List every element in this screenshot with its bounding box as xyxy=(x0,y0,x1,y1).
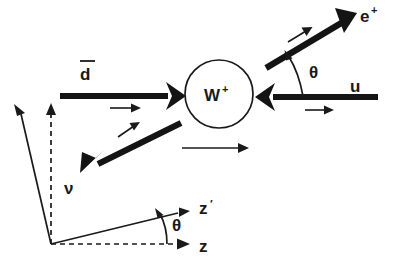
y-axis-dashed xyxy=(46,103,56,244)
neutrino-arrow xyxy=(80,123,181,173)
frame-angle-arc xyxy=(155,208,167,244)
neutrino-label: ν xyxy=(64,179,73,198)
positron-label: e xyxy=(360,7,369,26)
u-spin-arrow xyxy=(305,106,334,115)
dbar-spin-arrow xyxy=(110,104,141,113)
z-axis-line xyxy=(51,239,190,250)
neutrino-spin-arrow xyxy=(118,122,140,137)
z-prime-mark: ′ xyxy=(210,198,213,210)
diagram-svg: d u W + e + ν θ θ z ′ z xyxy=(0,0,393,266)
u-label: u xyxy=(350,77,360,96)
positron-arrow xyxy=(266,8,357,68)
w-boson-superscript: + xyxy=(222,83,228,95)
feynman-diagram-canvas: d u W + e + ν θ θ z ′ z xyxy=(0,0,393,266)
y-prime-axis xyxy=(14,104,51,244)
dbar-arrow xyxy=(60,82,186,110)
z-prime-label: z xyxy=(199,199,208,218)
positron-superscript: + xyxy=(371,4,377,16)
w-boson-label: W xyxy=(204,86,221,105)
z-label: z xyxy=(199,237,208,256)
dbar-label: d xyxy=(80,65,90,84)
z-prime-axis-line xyxy=(51,208,190,245)
w-momentum-arrow xyxy=(182,143,249,153)
frame-theta-label: θ xyxy=(172,216,181,235)
decay-angle-arc xyxy=(285,50,304,96)
decay-theta-label: θ xyxy=(309,63,318,82)
